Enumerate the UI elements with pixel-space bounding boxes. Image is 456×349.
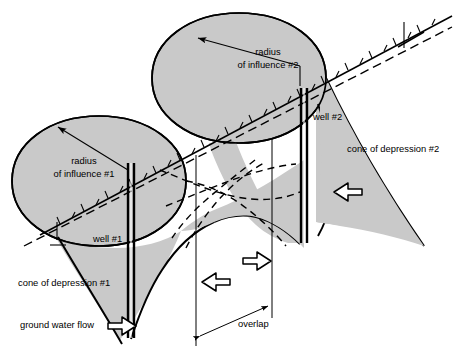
well-2-label: well #2 bbox=[312, 111, 342, 122]
radius-of-influence-1-disc bbox=[12, 116, 186, 246]
well-1-label: well #1 bbox=[92, 233, 122, 244]
cone-of-depression-figure: radius of influence #1 radius of influen… bbox=[0, 0, 456, 349]
cone-of-depression-2-label: cone of depression #2 bbox=[347, 143, 439, 154]
water-table-right-segment bbox=[398, 32, 424, 47]
block-arrow-left-icon bbox=[202, 273, 230, 291]
overlap-flow-arrow-right bbox=[243, 252, 271, 270]
radius-of-influence-1-label-line1: radius bbox=[71, 155, 97, 166]
ground-water-flow-label: ground water flow bbox=[20, 319, 94, 330]
radius-of-influence-2-label-line2: of influence #2 bbox=[238, 59, 299, 70]
overlap-flow-arrow-left bbox=[202, 273, 230, 291]
overlap-label: overlap bbox=[238, 318, 269, 329]
well-2-casing bbox=[301, 88, 307, 243]
radius-of-influence-1-label-line2: of influence #1 bbox=[54, 168, 115, 179]
cone-of-depression-1-label: cone of depression #1 bbox=[18, 277, 110, 288]
block-arrow-right-icon bbox=[243, 252, 271, 270]
well-1-casing bbox=[128, 163, 134, 338]
diagram-canvas: radius of influence #1 radius of influen… bbox=[0, 0, 456, 349]
radius-of-influence-2-label-line1: radius bbox=[255, 46, 281, 57]
